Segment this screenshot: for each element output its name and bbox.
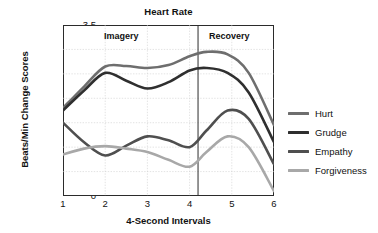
series-lines xyxy=(63,52,274,192)
x-tick-label: 3 xyxy=(137,198,157,209)
legend-label: Empathy xyxy=(315,146,353,157)
legend-swatch-forgiveness xyxy=(288,169,309,172)
chart-canvas xyxy=(63,25,274,196)
x-tick-label: 5 xyxy=(222,198,242,209)
x-tick-label: 2 xyxy=(95,198,115,209)
plot-area: Imagery Recovery xyxy=(63,25,274,196)
chart-title: Heart Rate xyxy=(63,6,274,17)
gridlines xyxy=(63,25,274,196)
x-tick-label: 1 xyxy=(53,198,73,209)
y-axis-title: Beats/Min Change Scores xyxy=(19,25,30,195)
legend-label: Hurt xyxy=(315,108,333,119)
panel-label-imagery: Imagery xyxy=(104,31,139,41)
legend-item-grudge[interactable]: Grudge xyxy=(288,123,378,142)
legend-swatch-empathy xyxy=(288,150,309,153)
chart-legend: HurtGrudgeEmpathyForgiveness xyxy=(288,104,378,180)
legend-label: Grudge xyxy=(315,127,347,138)
chart-figure: Heart Rate Beats/Min Change Scores 00.51… xyxy=(0,0,378,233)
x-tick-label: 4 xyxy=(180,198,200,209)
legend-item-empathy[interactable]: Empathy xyxy=(288,142,378,161)
legend-item-hurt[interactable]: Hurt xyxy=(288,104,378,123)
legend-swatch-hurt xyxy=(288,112,309,115)
panel-label-recovery: Recovery xyxy=(209,31,250,41)
legend-swatch-grudge xyxy=(288,131,309,134)
x-axis-title: 4-Second Intervals xyxy=(63,215,274,226)
x-tick-label: 6 xyxy=(264,198,284,209)
legend-item-forgiveness[interactable]: Forgiveness xyxy=(288,161,378,180)
legend-label: Forgiveness xyxy=(315,165,367,176)
